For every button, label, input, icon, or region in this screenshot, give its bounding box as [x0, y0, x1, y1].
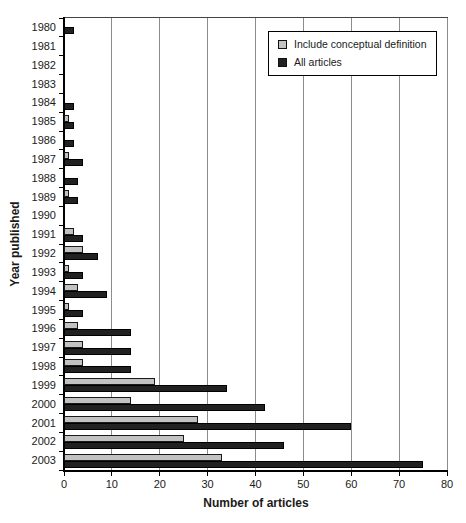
x-axis-tick-80: [447, 472, 448, 476]
y-tick-label-1984: 1984: [0, 93, 56, 112]
bar-conceptual-definition-1997: [64, 341, 83, 348]
x-tick-label-10: 10: [106, 478, 118, 490]
bar-all-articles-1999: [64, 385, 227, 392]
y-axis-tick: [59, 74, 64, 75]
bar-all-articles-2001: [64, 423, 351, 430]
bar-all-articles-1993: [64, 272, 83, 279]
y-tick-label-2003: 2003: [0, 451, 56, 470]
y-tick-label-1995: 1995: [0, 301, 56, 320]
bar-conceptual-definition-1989: [64, 190, 69, 197]
legend-item-include-conceptual-definition: Include conceptual definition: [278, 38, 427, 50]
x-tick-label-70: 70: [393, 478, 405, 490]
y-axis-tick: [59, 93, 64, 94]
bar-chart: 0102030405060708019801981198219831984198…: [0, 0, 466, 523]
y-tick-label-2001: 2001: [0, 414, 56, 433]
y-axis-tick: [59, 470, 64, 471]
y-axis-tick: [59, 413, 64, 414]
bar-conceptual-definition-1992: [64, 246, 83, 253]
y-axis-tick: [59, 112, 64, 113]
y-tick-label-1982: 1982: [0, 56, 56, 75]
y-axis-tick: [59, 338, 64, 339]
bar-all-articles-1995: [64, 310, 83, 317]
x-axis-tick-60: [351, 472, 352, 476]
x-axis-tick-20: [159, 472, 160, 476]
y-tick-label-1985: 1985: [0, 112, 56, 131]
y-axis-tick: [59, 281, 64, 282]
bar-all-articles-1994: [64, 291, 107, 298]
y-tick-label-1997: 1997: [0, 338, 56, 357]
x-axis-tick-0: [64, 472, 65, 476]
bar-all-articles-1997: [64, 348, 131, 355]
gridline-60: [351, 18, 352, 470]
y-tick-label-1987: 1987: [0, 150, 56, 169]
gridline-30: [207, 18, 208, 470]
legend-label-conceptual-definition: Include conceptual definition: [294, 38, 427, 50]
x-tick-label-40: 40: [249, 478, 261, 490]
x-axis-title: Number of articles: [64, 496, 448, 510]
y-tick-label-1983: 1983: [0, 75, 56, 94]
gridline-50: [303, 18, 304, 470]
x-tick-label-20: 20: [154, 478, 166, 490]
x-axis-tick-30: [207, 472, 208, 476]
gridline-70: [399, 18, 400, 470]
bar-all-articles-1991: [64, 235, 83, 242]
bar-conceptual-definition-1999: [64, 378, 155, 385]
y-axis-tick: [59, 206, 64, 207]
y-axis-tick: [59, 262, 64, 263]
bar-all-articles-2003: [64, 461, 423, 468]
x-axis-tick-10: [111, 472, 112, 476]
y-axis-tick: [59, 18, 64, 19]
gridline-20: [159, 18, 160, 470]
y-tick-label-1981: 1981: [0, 37, 56, 56]
bar-conceptual-definition-2000: [64, 397, 131, 404]
legend-swatch-all-articles: [278, 58, 287, 67]
y-tick-label-2000: 2000: [0, 395, 56, 414]
y-axis-tick: [59, 55, 64, 56]
legend-item-all-articles: All articles: [278, 56, 427, 68]
y-axis-tick: [59, 131, 64, 132]
y-tick-label-1986: 1986: [0, 131, 56, 150]
x-axis-tick-70: [399, 472, 400, 476]
x-tick-label-30: 30: [202, 478, 214, 490]
x-tick-label-80: 80: [441, 478, 453, 490]
bar-conceptual-definition-1995: [64, 303, 69, 310]
y-tick-label-1996: 1996: [0, 319, 56, 338]
x-tick-label-50: 50: [297, 478, 309, 490]
bar-conceptual-definition-2002: [64, 435, 184, 442]
y-axis-tick: [59, 187, 64, 188]
bar-conceptual-definition-1985: [64, 115, 69, 122]
bar-all-articles-1980: [64, 27, 74, 34]
y-axis-tick: [59, 300, 64, 301]
bar-all-articles-1988: [64, 178, 78, 185]
x-axis-tick-50: [303, 472, 304, 476]
bar-all-articles-1989: [64, 197, 78, 204]
y-axis-tick: [59, 168, 64, 169]
gridline-80: [447, 18, 448, 470]
x-tick-label-60: 60: [345, 478, 357, 490]
y-axis-tick: [59, 451, 64, 452]
bar-conceptual-definition-1987: [64, 152, 69, 159]
y-tick-label-1999: 1999: [0, 376, 56, 395]
y-axis-title: Year published: [8, 201, 22, 286]
bar-all-articles-1984: [64, 103, 74, 110]
bar-all-articles-2000: [64, 404, 265, 411]
bar-all-articles-1987: [64, 159, 83, 166]
bar-conceptual-definition-1993: [64, 265, 69, 272]
bar-conceptual-definition-1998: [64, 359, 83, 366]
y-tick-label-1988: 1988: [0, 169, 56, 188]
y-axis-tick: [59, 36, 64, 37]
y-axis-tick: [59, 357, 64, 358]
legend-swatch-conceptual-definition: [278, 40, 287, 49]
y-axis-tick: [59, 375, 64, 376]
bar-conceptual-definition-1991: [64, 228, 74, 235]
x-axis-tick-40: [255, 472, 256, 476]
bar-all-articles-1985: [64, 122, 74, 129]
y-tick-label-2002: 2002: [0, 432, 56, 451]
bar-conceptual-definition-1994: [64, 284, 78, 291]
y-axis-tick: [59, 225, 64, 226]
plot-border-top: [64, 17, 448, 18]
bar-all-articles-1992: [64, 253, 98, 260]
bar-conceptual-definition-1996: [64, 322, 78, 329]
y-axis-tick: [59, 319, 64, 320]
y-axis-tick: [59, 244, 64, 245]
